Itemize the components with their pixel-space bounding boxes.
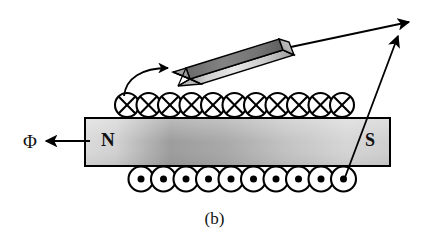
coil-dot-turn [309, 167, 334, 192]
coil-cross-turn [287, 93, 311, 117]
coil-cross-turn [309, 93, 333, 117]
coil-cross-turn [115, 93, 139, 117]
coil-dot-turn [151, 167, 176, 192]
coil-dot-turn [241, 167, 266, 192]
coil-cross-turn [158, 93, 182, 117]
coil-dot-turn [174, 167, 199, 192]
coil-cross-turn [180, 93, 204, 117]
coil-cross-row [115, 93, 354, 117]
coil-dot-turn [264, 167, 289, 192]
permanent-magnet-bar [85, 118, 390, 166]
coil-dot-turn [129, 167, 154, 192]
coil-dot-turn [196, 167, 221, 192]
coil-cross-turn [266, 93, 290, 117]
coil-dot-turn [219, 167, 244, 192]
coil-dot-turn [286, 167, 311, 192]
flux-symbol-label: Φ [23, 132, 37, 151]
coil-cross-turn [223, 93, 247, 117]
coil-dot-row [129, 167, 357, 192]
rod-leader-arrow [286, 22, 409, 48]
north-pole-label: N [101, 130, 115, 149]
coil-cross-turn [244, 93, 268, 117]
south-pole-label: S [365, 131, 375, 149]
coil-cross-turn [330, 93, 354, 117]
figure-caption: (b) [0, 210, 429, 227]
coil-cross-turn [137, 93, 161, 117]
curved-insertion-arrow [124, 68, 168, 96]
coil-cross-turn [201, 93, 225, 117]
figure-container: Φ N S (b) [0, 0, 429, 238]
figure-illustration [0, 0, 429, 238]
iron-rod [173, 39, 294, 86]
